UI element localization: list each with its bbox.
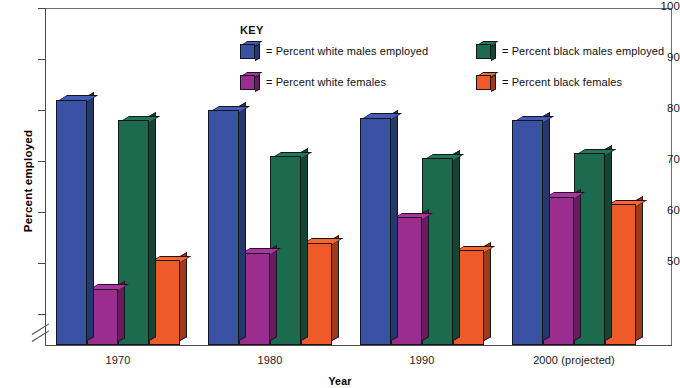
bar-side-face	[239, 102, 246, 341]
bar-chart: 1009080706050 Percent employed Year 1970…	[0, 0, 680, 388]
y-axis-tick-label: 80	[646, 102, 680, 114]
bar-side-face	[543, 112, 550, 341]
bar-side-face	[391, 110, 398, 341]
legend-item: = Percent black males employed	[476, 42, 664, 59]
y-axis-tick	[38, 263, 46, 264]
bar-side-face	[180, 252, 187, 341]
y-axis-tick	[38, 212, 46, 213]
y-axis-tick	[38, 8, 46, 9]
legend-swatch-icon	[476, 73, 493, 90]
bar-side-face	[605, 145, 612, 341]
y-axis-tick-label: 50	[646, 255, 680, 267]
bar-side-face	[301, 148, 308, 341]
axis-break-icon	[31, 322, 55, 344]
y-axis-tick-label: 70	[646, 153, 680, 165]
legend-item: = Percent white females	[240, 73, 386, 90]
x-axis-tick-label: 1970	[58, 354, 178, 366]
bar-side-face	[332, 235, 339, 341]
bar	[360, 118, 391, 345]
y-axis-title: Percent employed	[22, 121, 34, 241]
bar-front-face	[512, 120, 543, 345]
legend-label: = Percent white females	[266, 76, 386, 88]
bar	[56, 100, 87, 345]
bar-side-face	[453, 150, 460, 341]
x-axis-tick-label: 1980	[210, 354, 330, 366]
legend-swatch-icon	[240, 73, 257, 90]
legend-label: = Percent black females	[502, 76, 622, 88]
x-axis-line	[45, 345, 672, 346]
x-axis-tick-label: 2000 (projected)	[514, 354, 634, 366]
x-axis-title: Year	[0, 375, 680, 387]
top-edge-artifact	[18, 0, 138, 4]
legend-item: = Percent black females	[476, 73, 622, 90]
bar-side-face	[636, 196, 643, 341]
x-axis-tick-label: 1990	[362, 354, 482, 366]
y-axis-tick-label: 60	[646, 204, 680, 216]
y-axis-tick	[38, 314, 46, 315]
bar	[512, 120, 543, 345]
legend-label: = Percent white males employed	[266, 45, 428, 57]
y-axis-tick	[38, 59, 46, 60]
y-axis-tick	[38, 161, 46, 162]
legend-swatch-icon	[476, 42, 493, 59]
bar-side-face	[422, 209, 429, 341]
bar-side-face	[574, 189, 581, 341]
bar-side-face	[87, 92, 94, 341]
legend-item: = Percent white males employed	[240, 42, 428, 59]
bar-side-face	[149, 112, 156, 341]
legend-title: KEY	[240, 24, 264, 36]
bar-front-face	[56, 100, 87, 345]
plot-top-border	[45, 8, 672, 9]
bar	[208, 110, 239, 345]
bar-front-face	[360, 118, 391, 345]
legend-label: = Percent black males employed	[502, 45, 664, 57]
bar-front-face	[208, 110, 239, 345]
legend-swatch-icon	[240, 42, 257, 59]
bar-side-face	[484, 242, 491, 341]
bar-side-face	[270, 245, 277, 341]
y-axis-tick-label: 100	[646, 0, 680, 12]
chart-legend: KEY = Percent white males employed= Perc…	[240, 24, 660, 96]
y-axis-tick	[38, 110, 46, 111]
